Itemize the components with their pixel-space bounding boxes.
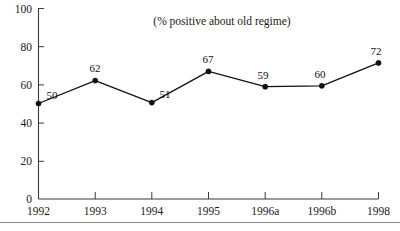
data-label-1993: 62: [90, 62, 101, 74]
x-tick-label-1992: 1992: [27, 205, 50, 217]
data-label-1995: 67: [203, 53, 215, 65]
data-label-1992: 50: [47, 89, 59, 101]
data-point-1996b[interactable]: [319, 83, 324, 88]
data-point-1993[interactable]: [93, 78, 98, 83]
x-tick-label-1994: 1994: [140, 205, 163, 217]
y-axis-tick-labels: 100 80 60 40 20 0: [15, 3, 33, 205]
x-tick-label-1996b: 1996b: [307, 205, 336, 217]
line-chart-svg: (% positive about old regime) 100 80 60 …: [0, 0, 400, 231]
x-axis-category-labels: 1992 1993 1994 1995 1996a 1996b 1998: [27, 205, 390, 217]
x-axis-ticks: [95, 192, 378, 199]
y-tick-label-20: 20: [21, 155, 33, 167]
data-label-1994: 51: [160, 88, 171, 100]
y-tick-label-40: 40: [21, 117, 33, 129]
data-label-1998: 72: [371, 45, 382, 57]
data-point-1996a[interactable]: [263, 84, 268, 89]
data-point-1995[interactable]: [206, 69, 211, 74]
data-label-1996a: 59: [258, 69, 270, 81]
y-tick-label-0: 0: [26, 193, 32, 205]
data-label-1996b: 60: [315, 68, 327, 80]
data-point-1994[interactable]: [149, 100, 154, 105]
x-tick-label-1993: 1993: [84, 205, 107, 217]
y-tick-label-60: 60: [21, 79, 33, 91]
data-point-1998[interactable]: [376, 60, 381, 65]
y-axis-ticks: [39, 9, 45, 162]
x-tick-label-1995: 1995: [197, 205, 220, 217]
chart-figure: (% positive about old regime) 100 80 60 …: [0, 0, 400, 231]
x-tick-label-1998: 1998: [367, 205, 390, 217]
data-point-1992[interactable]: [36, 101, 41, 106]
y-tick-label-100: 100: [15, 3, 33, 15]
x-tick-label-1996a: 1996a: [251, 205, 279, 217]
chart-title: (% positive about old regime): [153, 15, 290, 28]
y-tick-label-80: 80: [21, 41, 33, 53]
